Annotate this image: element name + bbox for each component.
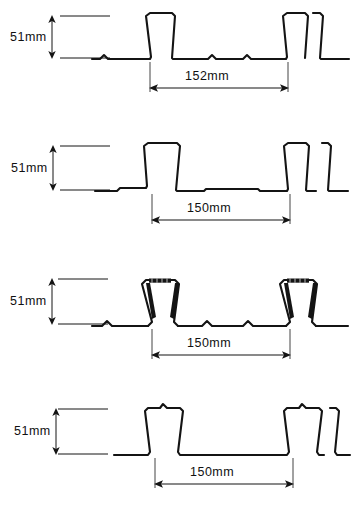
width-dimension-2: 150mm [151, 194, 291, 224]
width-dimension-3: 150mm [151, 329, 291, 359]
deck-section-3 [92, 279, 348, 327]
height-dimension-3: 51mm [10, 278, 108, 325]
height-label-3: 51mm [10, 294, 47, 308]
height-dimension-4: 51mm [14, 408, 108, 455]
deck-section-4 [114, 404, 350, 455]
profile-3-panel: 51mm [0, 256, 359, 384]
profile-1-panel: 51mm 152mm [0, 0, 359, 128]
width-label-4: 150mm [190, 465, 234, 479]
deck-section-2 [95, 143, 348, 191]
deck-profile-figure: 51mm 152mm 51mm [0, 0, 359, 510]
height-label-4: 51mm [14, 424, 51, 438]
height-label-1: 51mm [10, 30, 47, 44]
height-dimension-2: 51mm [11, 145, 110, 191]
width-dimension-1: 152mm [149, 62, 289, 92]
profile-4-panel: 51mm 150mm [0, 382, 359, 510]
width-label-3: 150mm [187, 336, 231, 350]
width-label-1: 152mm [185, 69, 229, 83]
profile-2-panel: 51mm 150mm [0, 128, 359, 256]
width-dimension-4: 150mm [154, 458, 294, 488]
width-label-2: 150mm [187, 201, 231, 215]
height-label-2: 51mm [11, 161, 48, 175]
deck-section-1 [92, 13, 349, 59]
height-dimension-1: 51mm [10, 15, 110, 59]
